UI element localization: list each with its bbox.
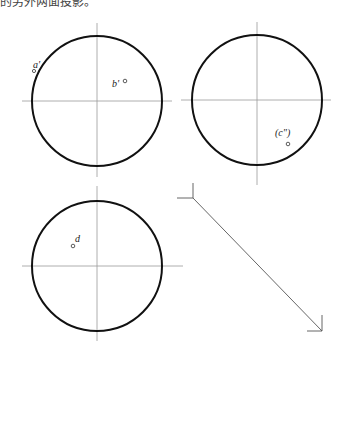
- point-c-double-prime-label: (c"): [275, 127, 291, 139]
- miter-projection-line: [177, 183, 322, 331]
- point-b-prime-label: b': [112, 78, 120, 89]
- point-c-double-prime-marker: [286, 142, 290, 146]
- side-view: (c"): [181, 22, 331, 185]
- miter-diagonal-line: [193, 198, 322, 331]
- point-d-marker: [71, 244, 75, 248]
- front-view: a' b': [22, 23, 172, 177]
- point-d-label: d: [75, 233, 81, 244]
- point-a-prime-label: a': [33, 59, 41, 70]
- top-view: d: [22, 186, 183, 341]
- point-b-prime-marker: [123, 79, 127, 83]
- projection-drawing: a' b' (c") d: [0, 0, 356, 436]
